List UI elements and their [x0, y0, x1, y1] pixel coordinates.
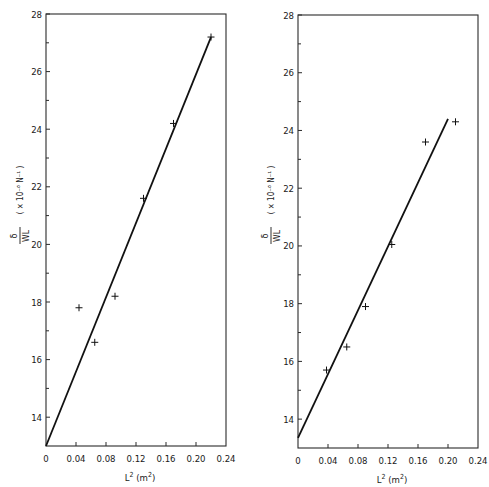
data-point-plus-marker	[112, 293, 119, 300]
x-tick-label: 0.24	[468, 455, 487, 466]
x-tick-label: 0.16	[156, 453, 175, 464]
x-tick-label: 0.16	[408, 455, 427, 466]
y-tick-label: 28	[283, 10, 294, 21]
x-tick-label: 0.08	[96, 453, 115, 464]
x-axis-label: L2 (m2)	[377, 473, 408, 485]
svg-text:( × 10⁻⁶ N⁻¹ ): ( × 10⁻⁶ N⁻¹ )	[267, 165, 276, 214]
x-tick-label: 0.24	[216, 453, 235, 464]
x-tick-label: 0.20	[438, 455, 457, 466]
data-point-plus-marker	[452, 118, 459, 125]
y-tick-label: 22	[283, 183, 294, 194]
data-point-plus-marker	[76, 304, 83, 311]
chart-left-svg: 141618202224262800.040.080.120.160.200.2…	[0, 0, 245, 487]
y-tick-label: 28	[31, 9, 42, 20]
y-tick-label: 22	[31, 181, 42, 192]
svg-text:δ: δ	[260, 233, 270, 238]
y-tick-label: 16	[283, 356, 294, 367]
y-tick-label: 18	[31, 297, 42, 308]
y-tick-label: 26	[283, 67, 294, 78]
y-tick-label: 14	[31, 412, 42, 423]
y-tick-label: 18	[283, 298, 294, 309]
svg-text:WL: WL	[272, 229, 282, 242]
x-tick-label: 0.20	[186, 453, 205, 464]
chart-right-svg: 141618202224262800.040.080.120.160.200.2…	[245, 0, 489, 487]
fit-line	[298, 119, 448, 438]
data-point-plus-marker	[91, 339, 98, 346]
x-tick-label: 0.04	[66, 453, 85, 464]
y-tick-label: 20	[31, 239, 42, 250]
x-tick-label: 0.08	[348, 455, 367, 466]
y-tick-label: 20	[283, 240, 294, 251]
fit-line	[46, 37, 211, 446]
y-tick-label: 14	[283, 414, 294, 425]
svg-text:WL: WL	[21, 229, 31, 242]
x-tick-label: 0	[295, 455, 300, 466]
chart-right: 141618202224262800.040.080.120.160.200.2…	[245, 0, 489, 487]
svg-text:δ: δ	[9, 233, 19, 238]
data-point-plus-marker	[362, 303, 369, 310]
x-tick-label: 0.12	[378, 455, 397, 466]
chart-left: 141618202224262800.040.080.120.160.200.2…	[0, 0, 245, 487]
x-tick-label: 0.12	[126, 453, 145, 464]
x-tick-label: 0.04	[318, 455, 337, 466]
data-point-plus-marker	[343, 343, 350, 350]
y-axis-label: δWL( × 10⁻⁶ N⁻¹ )	[9, 165, 31, 244]
y-tick-label: 24	[283, 125, 294, 136]
y-tick-label: 26	[31, 66, 42, 77]
y-tick-label: 24	[31, 124, 42, 135]
x-tick-label: 0	[43, 453, 48, 464]
plot-frame	[298, 15, 478, 448]
svg-text:( × 10⁻⁶ N⁻¹ ): ( × 10⁻⁶ N⁻¹ )	[16, 165, 25, 214]
data-point-plus-marker	[422, 139, 429, 146]
y-tick-label: 16	[31, 354, 42, 365]
y-axis-label: δWL( × 10⁻⁶ N⁻¹ )	[260, 165, 282, 244]
x-axis-label: L2 (m2)	[125, 471, 156, 483]
